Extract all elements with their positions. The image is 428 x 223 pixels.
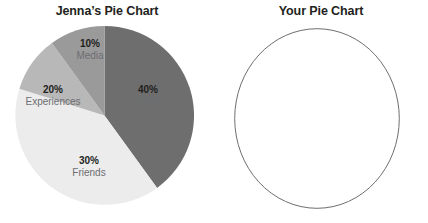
blank-pie-outline[interactable]	[235, 29, 400, 209]
pie-svg	[15, 26, 194, 205]
pie-chart-worksheet: Jenna’s Pie Chart 10% Media 40% Family	[0, 0, 428, 223]
blank-circle-svg[interactable]	[234, 28, 400, 209]
your-pie-chart-panel: Your Pie Chart	[214, 0, 428, 223]
jenna-pie-graphic	[15, 26, 194, 205]
blank-pie-graphic[interactable]	[234, 28, 400, 209]
jenna-pie-chart-panel: Jenna’s Pie Chart 10% Media 40% Family	[0, 0, 214, 223]
your-chart-title: Your Pie Chart	[214, 4, 428, 18]
jenna-chart-title: Jenna’s Pie Chart	[0, 4, 214, 18]
